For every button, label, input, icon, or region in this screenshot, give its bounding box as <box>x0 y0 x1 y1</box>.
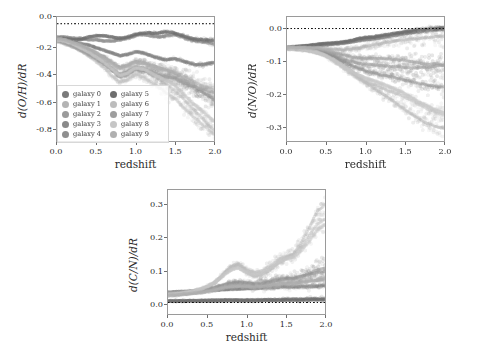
xtick-label: 0.5 <box>200 319 213 329</box>
xtick-label: 1.0 <box>240 319 253 329</box>
xtick-mark <box>444 142 445 145</box>
legend-label: galaxy 0 <box>73 90 101 98</box>
ytick-mark <box>53 74 56 75</box>
xtick-label: 0.5 <box>319 146 332 156</box>
legend-item[interactable]: galaxy 7 <box>110 109 149 119</box>
legend-item[interactable]: galaxy 5 <box>110 89 149 99</box>
panel-n-o: 0.0 -0.1 -0.2 -0.3 0.0 0.5 1.0 1.5 2.0 d… <box>240 0 477 180</box>
ytick-mark <box>53 129 56 130</box>
legend-swatch-icon <box>110 91 117 98</box>
legend-label: galaxy 5 <box>121 90 149 98</box>
ytick-label: 0.3 <box>133 199 163 209</box>
xtick-mark <box>214 142 215 145</box>
xtick-label: 1.5 <box>169 146 182 156</box>
ytick-label: -0.3 <box>252 122 282 132</box>
legend: galaxy 0 galaxy 1 galaxy 2 galaxy 3 gala… <box>57 85 169 143</box>
legend-item[interactable]: galaxy 3 <box>62 119 101 129</box>
xtick-label: 0.5 <box>89 146 102 156</box>
ytick-mark <box>53 102 56 103</box>
ytick-label: 0.0 <box>133 299 163 309</box>
xtick-label: 2.0 <box>208 146 221 156</box>
legend-swatch-icon <box>62 101 69 108</box>
ytick-mark <box>53 47 56 48</box>
legend-label: galaxy 6 <box>121 100 149 108</box>
xtick-mark <box>247 315 248 318</box>
scatter-canvas-c-n <box>168 190 325 314</box>
xtick-label: 0.0 <box>279 146 292 156</box>
legend-item[interactable]: galaxy 4 <box>62 129 101 139</box>
xtick-label: 1.0 <box>129 146 142 156</box>
legend-label: galaxy 7 <box>121 110 149 118</box>
xtick-label: 1.5 <box>399 146 412 156</box>
xtick-mark <box>175 142 176 145</box>
ytick-mark <box>283 28 286 29</box>
ytick-mark <box>164 271 167 272</box>
legend-swatch-icon <box>110 111 117 118</box>
legend-swatch-icon <box>62 111 69 118</box>
ytick-mark <box>53 16 56 17</box>
ytick-mark <box>164 237 167 238</box>
legend-column-right: galaxy 5 galaxy 6 galaxy 7 galaxy 8 gala… <box>110 89 149 139</box>
xtick-mark <box>366 142 367 145</box>
panel-o-h: 0.0 -0.2 -0.4 -0.6 -0.8 0.0 0.5 1.0 1.5 … <box>0 0 240 180</box>
legend-item[interactable]: galaxy 0 <box>62 89 101 99</box>
ytick-mark <box>283 94 286 95</box>
xtick-label: 0.0 <box>49 146 62 156</box>
x-axis-label: redshift <box>167 331 326 343</box>
legend-swatch-icon <box>110 101 117 108</box>
panel-c-n: 0.3 0.2 0.1 0.0 0.0 0.5 1.0 1.5 2.0 d(C/… <box>110 180 360 355</box>
legend-item[interactable]: galaxy 6 <box>110 99 149 109</box>
legend-column-left: galaxy 0 galaxy 1 galaxy 2 galaxy 3 gala… <box>62 89 101 139</box>
legend-swatch-icon <box>110 121 117 128</box>
y-axis-label: d(O/H)/dR <box>16 64 28 118</box>
xtick-mark <box>326 142 327 145</box>
xtick-mark <box>167 315 168 318</box>
legend-label: galaxy 9 <box>121 130 149 138</box>
legend-swatch-icon <box>62 121 69 128</box>
legend-item[interactable]: galaxy 1 <box>62 99 101 109</box>
ytick-label: 0.0 <box>22 11 52 21</box>
legend-swatch-icon <box>110 131 117 138</box>
legend-label: galaxy 2 <box>73 110 101 118</box>
legend-item[interactable]: galaxy 8 <box>110 119 149 129</box>
ytick-label: -0.2 <box>22 42 52 52</box>
xtick-mark <box>286 142 287 145</box>
x-axis-label: redshift <box>56 158 215 170</box>
xtick-label: 2.0 <box>438 146 451 156</box>
legend-item[interactable]: galaxy 9 <box>110 129 149 139</box>
plot-frame-n-o <box>286 16 445 142</box>
xtick-mark <box>325 315 326 318</box>
legend-label: galaxy 1 <box>73 100 101 108</box>
legend-label: galaxy 3 <box>73 120 101 128</box>
ytick-mark <box>164 304 167 305</box>
plot-frame-c-n <box>167 189 326 315</box>
y-axis-label: d(N/O)/dR <box>246 64 258 118</box>
ytick-label: -0.8 <box>22 124 52 134</box>
xtick-mark <box>207 315 208 318</box>
ytick-label: 0.0 <box>252 23 282 33</box>
xtick-mark <box>286 315 287 318</box>
y-axis-label: d(C/N)/dR <box>127 238 139 292</box>
ytick-mark <box>283 61 286 62</box>
xtick-label: 1.0 <box>359 146 372 156</box>
scatter-canvas-n-o <box>287 17 444 141</box>
legend-label: galaxy 8 <box>121 120 149 128</box>
xtick-mark <box>405 142 406 145</box>
legend-swatch-icon <box>62 91 69 98</box>
legend-label: galaxy 4 <box>73 130 101 138</box>
legend-swatch-icon <box>62 131 69 138</box>
legend-item[interactable]: galaxy 2 <box>62 109 101 119</box>
xtick-label: 2.0 <box>319 319 332 329</box>
xtick-label: 1.5 <box>280 319 293 329</box>
ytick-mark <box>164 204 167 205</box>
xtick-label: 0.0 <box>160 319 173 329</box>
x-axis-label: redshift <box>286 158 445 170</box>
ytick-mark <box>283 127 286 128</box>
